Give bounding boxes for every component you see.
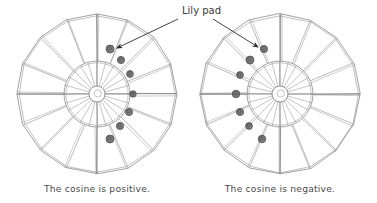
wheel-hub-spoke	[282, 63, 288, 86]
wheel-strut-rail	[95, 127, 96, 174]
wheel-strut-rail	[292, 125, 310, 169]
wheel-left	[17, 14, 177, 175]
wheel-hub-spoke	[282, 102, 288, 126]
wheel-strut-rail	[22, 105, 66, 122]
lily-pad-body	[237, 72, 244, 79]
wheel-strut-rail	[109, 125, 127, 168]
wheel-strut	[224, 118, 257, 151]
wheel-strut	[41, 117, 73, 150]
lily-pad-body	[260, 45, 267, 52]
wheel-hub-spoke	[65, 96, 89, 103]
wheel-hub-spoke	[104, 98, 126, 111]
lily-pad	[260, 45, 267, 52]
wheel-hub-spoke	[99, 62, 106, 87]
wheel-hub-spoke	[105, 96, 128, 103]
wheel-strut-rail	[305, 39, 337, 71]
wheel-caption-right: The cosine is negative.	[224, 183, 335, 194]
lily-pad-annotation: Lily pad	[117, 5, 258, 48]
captions-layer: The cosine is positive.The cosine is neg…	[43, 183, 335, 194]
lily-pad-body	[130, 91, 136, 97]
wheel-strut	[249, 124, 268, 168]
wheel-strut	[292, 20, 310, 64]
wheel-strut-rail	[225, 36, 258, 70]
wheel-strut-rail	[311, 65, 354, 83]
lily-pad-body	[125, 108, 132, 115]
lily-pad	[106, 45, 114, 53]
wheel-strut	[310, 63, 353, 81]
wheel-hub-spoke	[99, 102, 106, 127]
wheel-strut-rail	[42, 36, 74, 70]
wheel-strut	[121, 117, 154, 150]
lily-pad-body	[236, 108, 243, 115]
lily-pad-body	[106, 45, 114, 53]
wheel-hub-spoke	[89, 102, 95, 126]
wheel-strut	[310, 106, 353, 124]
wheel-strut	[120, 37, 153, 70]
wheel-strut-rail	[119, 119, 153, 152]
wheel-hub-spoke	[248, 96, 272, 102]
wheel-hub-spoke	[88, 63, 95, 87]
wheel-hub-center	[277, 90, 284, 97]
wheel-strut	[303, 38, 336, 71]
lily-pad-body	[116, 122, 123, 129]
wheel-hub-spoke	[288, 96, 313, 103]
wheel-strut	[206, 63, 250, 82]
wheel-hub-spoke	[65, 85, 90, 92]
lily-pad-wheels-figure: Lily pad The cosine is positive.The cosi…	[0, 0, 377, 203]
wheel-strut-rail	[23, 62, 66, 80]
lily-pad-body	[246, 123, 253, 130]
lily-pad-body	[232, 90, 240, 98]
wheel-strut	[22, 64, 66, 82]
lily-pad	[125, 108, 132, 115]
lily-pad-label: Lily pad	[182, 5, 221, 16]
lily-pad-body	[127, 71, 134, 78]
wheel-hub-spoke	[69, 77, 90, 90]
wheel-strut-rail	[223, 117, 255, 149]
lily-pad	[258, 135, 266, 143]
wheel-strut-rail	[17, 92, 64, 93]
arrow-to-left-wheel-pad	[117, 19, 178, 48]
wheels-layer	[17, 13, 360, 174]
wheel-right	[200, 13, 361, 174]
lily-pad	[127, 71, 134, 78]
wheel-strut	[110, 125, 128, 168]
lily-pad	[236, 108, 243, 115]
lily-pad-body	[258, 135, 266, 143]
wheel-hub-spoke	[105, 85, 130, 91]
wheel-strut-rail	[248, 124, 267, 166]
wheel-hub-spoke	[272, 62, 278, 86]
wheel-strut	[110, 19, 127, 63]
wheel-strut-rail	[251, 19, 268, 62]
wheel-strut	[128, 107, 171, 124]
lily-pad-body	[246, 56, 254, 64]
wheel-strut	[303, 118, 336, 151]
wheel-strut	[66, 125, 84, 168]
wheel-strut-rail	[98, 14, 99, 61]
wheel-strut	[67, 20, 84, 64]
wheel-hub-spoke	[248, 86, 273, 92]
wheel-strut-rail	[40, 117, 73, 150]
wheel-strut	[41, 38, 74, 71]
wheel-strut	[293, 125, 311, 169]
wheel-caption-left: The cosine is positive.	[43, 183, 150, 194]
wheel-strut-rail	[68, 20, 85, 64]
lily-pad	[130, 91, 136, 97]
wheel-strut-rail	[314, 95, 360, 96]
wheel-strut-rail	[310, 108, 354, 127]
wheel-hub-spoke	[272, 102, 278, 127]
wheel-strut	[206, 106, 249, 125]
lily-pad	[232, 90, 240, 98]
wheel-strut-rail	[294, 21, 312, 64]
lily-pad	[237, 72, 244, 79]
annotation-arrows	[117, 19, 258, 48]
lily-pad	[106, 135, 114, 143]
wheel-strut-rail	[129, 65, 172, 83]
wheel-strut-rail	[127, 108, 171, 126]
wheel-hub-spoke	[288, 85, 312, 92]
lily-pad-body	[106, 135, 114, 143]
wheel-strut-rail	[64, 124, 82, 168]
lily-pad-body	[117, 56, 124, 63]
wheel-hub-center	[94, 90, 101, 97]
lily-pad	[246, 56, 254, 64]
lily-pad	[117, 56, 124, 63]
